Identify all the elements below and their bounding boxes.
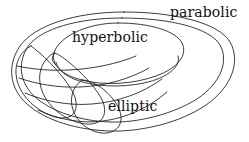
- region-label-parabolic: parabolic: [170, 5, 237, 19]
- region-label-elliptic: elliptic: [108, 99, 157, 113]
- torus-drawing: [0, 0, 249, 142]
- meridian-curve-1: [16, 46, 76, 118]
- parallel-curve-1: [17, 56, 136, 70]
- meridian-curve-2: [40, 53, 105, 124]
- torus-curvature-figure: parabolic hyperbolic elliptic: [0, 0, 249, 142]
- parallel-curve-2: [19, 68, 149, 87]
- region-label-hyperbolic: hyperbolic: [72, 30, 148, 44]
